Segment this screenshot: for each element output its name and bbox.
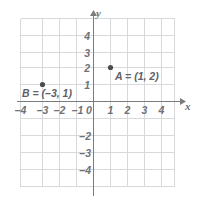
x-tick-label-4: 4 bbox=[159, 105, 165, 116]
y-tick-label-3: 3 bbox=[84, 47, 90, 58]
x-tick-label--4: –4 bbox=[15, 105, 27, 116]
x-tick-label-2: 2 bbox=[125, 105, 131, 116]
y-tick-label--3: –3 bbox=[79, 147, 91, 158]
point-marker-a bbox=[108, 65, 113, 70]
x-tick-label-1: 1 bbox=[108, 105, 114, 116]
point-label-a: A = (1, 2) bbox=[115, 71, 159, 82]
y-tick-label-2: 2 bbox=[84, 62, 90, 73]
y-axis-name: y bbox=[96, 8, 101, 19]
x-tick-label--1: –1 bbox=[72, 105, 84, 116]
y-tick-label--2: –2 bbox=[79, 130, 91, 141]
coordinate-plane-graphic bbox=[0, 0, 200, 200]
point-label-b: B = (–3, 1) bbox=[22, 88, 72, 99]
x-tick-label-3: 3 bbox=[142, 105, 148, 116]
y-tick-label--4: –4 bbox=[79, 164, 91, 175]
y-tick-label-1: 1 bbox=[84, 79, 90, 90]
y-tick-label-4: 4 bbox=[84, 30, 90, 41]
x-tick-label--3: –3 bbox=[37, 105, 49, 116]
origin-label: 0 bbox=[86, 105, 92, 116]
grid-lines bbox=[21, 19, 175, 187]
x-axis-name: x bbox=[185, 101, 191, 112]
coordinate-plane-figure: –4 –3 –2 –1 1 2 3 4 0 4 3 2 1 –2 –3 –4 y… bbox=[0, 0, 200, 200]
x-tick-label--2: –2 bbox=[54, 105, 66, 116]
